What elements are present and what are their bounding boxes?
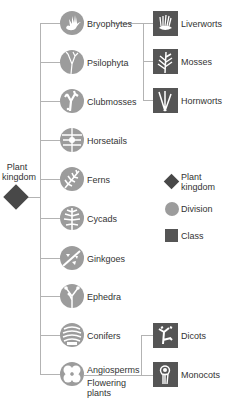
- hornwort-icon: [153, 88, 178, 113]
- branch-ferns: [40, 179, 60, 180]
- branch-cycads: [40, 218, 60, 219]
- branch-clubmosses: [40, 101, 60, 102]
- division-label-psilophyta: Psilophyta: [87, 58, 129, 68]
- trunk-line: [40, 23, 41, 374]
- division-label-ferns: Ferns: [87, 175, 110, 185]
- cycad-leaf-icon: [60, 206, 84, 230]
- bryo-branch-mosses: [143, 61, 153, 62]
- angio-branch-dicots: [141, 335, 153, 336]
- branch-conifers: [40, 335, 60, 336]
- division-label-conifers: Conifers: [87, 331, 121, 341]
- legend-kingdom-swatch: [164, 174, 180, 190]
- clubmoss-icon: [60, 89, 84, 113]
- angio-branch-monocots: [141, 375, 153, 376]
- forked-stem-icon: [60, 50, 84, 74]
- fern-frond-icon: [60, 167, 84, 191]
- legend-class-swatch: [165, 229, 178, 242]
- angio-connector: [84, 375, 141, 376]
- liverwort-icon: [153, 11, 178, 36]
- angiosperms-sublabel: Flowering plants: [87, 378, 126, 398]
- flower-icon: [60, 362, 84, 386]
- division-label-angiosperms: Angiosperms: [87, 365, 140, 375]
- class-label-hornworts: Hornworts: [181, 96, 222, 106]
- cone-icon: [60, 323, 84, 347]
- division-label-horsetails: Horsetails: [87, 136, 127, 146]
- horsetail-icon: [60, 128, 84, 152]
- legend-class-label: Class: [181, 231, 204, 241]
- angio-class-trunk: [141, 335, 142, 376]
- legend-kingdom-label: Plant kingdom: [181, 172, 215, 192]
- branch-bryophytes: [40, 23, 60, 24]
- dicot-icon: [153, 323, 178, 348]
- division-label-bryophytes: Bryophytes: [87, 19, 132, 29]
- bryo-branch-hornworts: [143, 100, 153, 101]
- legend-division-label: Division: [181, 204, 213, 214]
- bryo-branch-liverworts: [143, 23, 153, 24]
- branch-ephedra: [40, 296, 60, 297]
- division-label-cycads: Cycads: [87, 214, 117, 224]
- branch-horsetails: [40, 140, 60, 141]
- class-label-mosses: Mosses: [181, 57, 212, 67]
- root-label: Plant kingdom: [2, 162, 32, 182]
- class-label-dicots: Dicots: [181, 331, 206, 341]
- branch-angiosperms: [40, 374, 60, 375]
- monocot-icon: [153, 362, 178, 387]
- division-label-ginkgoes: Ginkgoes: [87, 254, 125, 264]
- branch-psilophyta: [40, 62, 60, 63]
- moss-icon: [153, 49, 178, 74]
- division-label-clubmosses: Clubmosses: [87, 97, 137, 107]
- branch-ginkgoes: [40, 258, 60, 259]
- class-label-monocots: Monocots: [181, 370, 220, 380]
- ginkgo-icon: [60, 246, 84, 270]
- legend-division-swatch: [165, 202, 179, 216]
- division-label-ephedra: Ephedra: [87, 292, 121, 302]
- hand-moss-icon: [60, 11, 84, 35]
- ephedra-icon: [60, 284, 84, 308]
- class-label-liverworts: Liverworts: [181, 19, 222, 29]
- plant-kingdom-node: [3, 184, 28, 209]
